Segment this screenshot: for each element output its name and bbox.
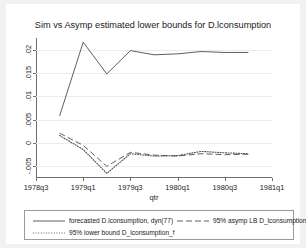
y-axis-tick-label: .02	[24, 45, 33, 55]
series-lines	[36, 38, 272, 178]
x-axis-tick-label: 1980q1	[165, 183, 190, 192]
legend-label: 95% asymp LB D_lconsumption	[213, 217, 306, 224]
legend-key-solid-icon	[33, 217, 65, 225]
chart-screenshot: Sim vs Asymp estimated lower bounds for …	[0, 0, 306, 248]
y-axis-tick-label: -.005	[24, 158, 33, 175]
x-axis-tick-label: 1980q3	[212, 183, 237, 192]
y-axis-tick-label: .005	[24, 112, 33, 126]
x-axis-tick-label: 1979q1	[71, 183, 96, 192]
x-axis-tick-label: 1979q3	[118, 183, 143, 192]
legend-key-dashed-icon	[177, 217, 209, 225]
y-axis-tick-label: .015	[24, 66, 33, 80]
plot-region: -.0050.005.01.015.02 1978q31979q11979q31…	[36, 38, 272, 178]
y-axis-tick-label: .01	[24, 91, 33, 101]
legend-item: 95% asymp LB D_lconsumption	[177, 215, 306, 226]
chart-title: Sim vs Asymp estimated lower bounds for …	[6, 20, 300, 30]
legend-box: forecasted D.lconsumption, dyn(77)95% as…	[24, 210, 294, 240]
x-axis-tick-label: 1981q1	[260, 183, 285, 192]
graph-canvas: Sim vs Asymp estimated lower bounds for …	[6, 4, 300, 244]
legend-label: 95% lower bound D_lconsumption_f	[69, 229, 175, 236]
x-axis-tick	[272, 178, 273, 181]
y-axis-tick-label: 0	[24, 141, 33, 145]
legend-key-dotted-icon	[33, 229, 65, 237]
series-line	[60, 42, 249, 116]
x-axis-tick	[225, 178, 226, 181]
x-axis-tick	[36, 178, 37, 181]
x-axis-tick-label: 1978q3	[24, 183, 49, 192]
x-axis-tick	[83, 178, 84, 181]
legend-item: 95% lower bound D_lconsumption_f	[33, 227, 175, 238]
legend-label: forecasted D.lconsumption, dyn(77)	[69, 217, 173, 224]
legend-item: forecasted D.lconsumption, dyn(77)	[33, 215, 173, 226]
series-line	[60, 133, 249, 166]
x-axis-tick	[130, 178, 131, 181]
x-axis-tick	[178, 178, 179, 181]
x-axis-title: qtr	[36, 193, 272, 202]
